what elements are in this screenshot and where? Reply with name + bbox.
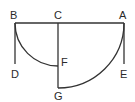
label-c: C bbox=[54, 9, 62, 21]
label-g: G bbox=[54, 90, 63, 102]
label-a: A bbox=[119, 9, 127, 21]
label-f: F bbox=[61, 56, 68, 68]
label-d: D bbox=[11, 68, 19, 80]
arc-ag bbox=[58, 23, 124, 88]
label-e: E bbox=[120, 68, 127, 80]
arc-bf bbox=[15, 23, 58, 66]
label-b: B bbox=[10, 9, 17, 21]
geometry-diagram: B C A D E F G bbox=[0, 0, 135, 102]
